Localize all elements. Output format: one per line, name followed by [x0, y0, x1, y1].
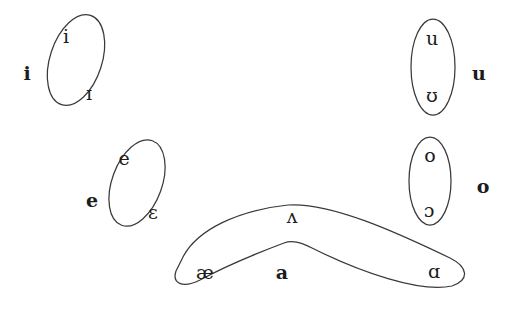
- category-label-o: o: [477, 177, 490, 196]
- phoneme-a-open-back: ɑ: [428, 262, 440, 281]
- group-outline-e: [98, 132, 176, 234]
- phoneme-u-lax: ʊ: [426, 86, 438, 105]
- phoneme-i-lax: ɪ: [86, 84, 92, 103]
- phoneme-o-close-mid: o: [424, 146, 435, 165]
- phoneme-a-near-open-front: æ: [196, 263, 214, 282]
- category-label-e: e: [86, 191, 98, 210]
- vowel-diagram-canvas: i i ɪ e e ɛ u u ʊ o o ɔ a æ ʌ ɑ: [0, 0, 521, 317]
- vowel-grouping-outlines: [0, 0, 521, 317]
- phoneme-o-open-mid: ɔ: [424, 201, 435, 220]
- category-label-i: i: [23, 64, 30, 83]
- category-label-u: u: [472, 64, 486, 83]
- phoneme-i-close: i: [63, 27, 69, 46]
- phoneme-e-close-mid: e: [118, 149, 129, 168]
- phoneme-u-close: u: [426, 29, 438, 48]
- category-label-a: a: [276, 263, 288, 282]
- phoneme-e-open-mid: ɛ: [148, 203, 158, 222]
- group-outline-i: [37, 7, 116, 112]
- group-outline-a: [175, 205, 464, 288]
- phoneme-a-open-mid-back: ʌ: [287, 207, 298, 226]
